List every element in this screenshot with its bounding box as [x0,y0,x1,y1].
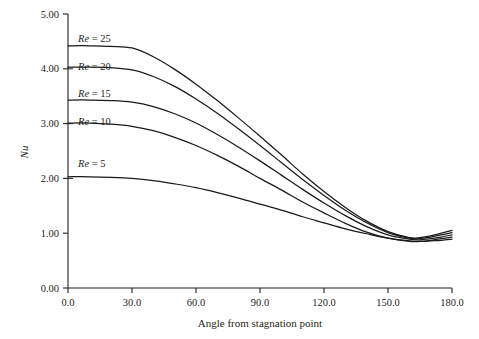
y-axis-tick-label: 2.00 [41,173,59,184]
series-label-10: Re = 10 [77,116,111,127]
nusselt-vs-angle-chart: 0.001.002.003.004.005.00 0.030.060.090.0… [0,0,479,339]
y-axis-tick-label: 0.00 [41,283,59,294]
series-label-25: Re = 25 [77,33,111,44]
series-label-15: Re = 15 [77,88,111,99]
series-label-20: Re = 20 [77,61,111,72]
y-axis-tick-label: 4.00 [41,63,59,74]
x-axis-tick-label: 90.0 [251,297,269,308]
x-axis-tick-label: 60.0 [187,297,205,308]
x-axis-tick-label: 0.0 [61,297,74,308]
x-axis-tick-label: 120.0 [312,297,336,308]
y-axis-title: Nu [18,145,30,159]
y-axis-tick-label: 5.00 [41,9,59,20]
x-axis-tick-label: 30.0 [123,297,141,308]
y-axis-tick-label: 1.00 [41,228,59,239]
x-axis-title: Angle from stagnation point [198,317,322,329]
y-axis-tick-label: 3.00 [41,118,59,129]
chart-figure: 0.001.002.003.004.005.00 0.030.060.090.0… [0,0,479,339]
series-label-5: Re = 5 [77,158,106,169]
x-axis-tick-label: 150.0 [376,297,400,308]
x-axis-tick-label: 180.0 [440,297,464,308]
